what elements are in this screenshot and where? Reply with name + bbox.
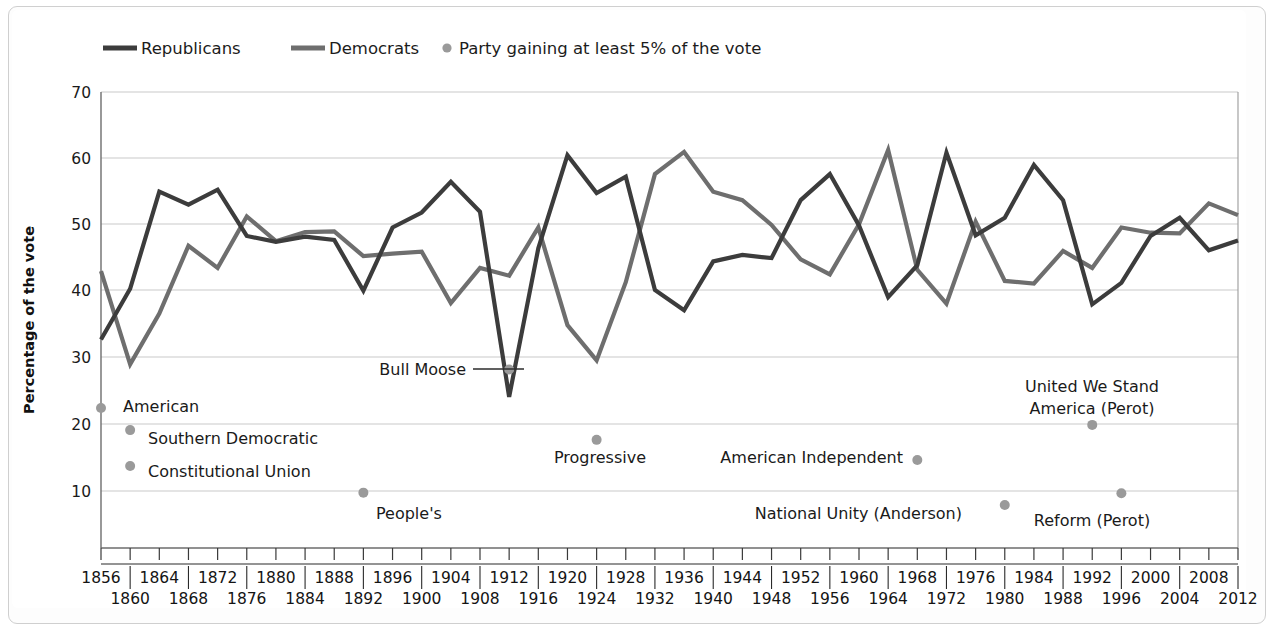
legend-swatch-third-party-dot [442,43,451,52]
x-tick-label-upper: 1864 [140,569,179,587]
annotation-southern-democratic: Southern Democratic [148,429,318,448]
x-tick-label-upper: 1888 [315,569,354,587]
x-tick-label-lower: 1924 [577,590,616,608]
x-tick-label-upper: 1936 [664,569,703,587]
y-axis: 70 60 50 40 30 20 10 Percentage of the v… [21,84,91,501]
annotation-peoples: People's [376,504,442,523]
y-tick-40: 40 [71,282,91,300]
x-axis: 1856186418721880188818961904191219201928… [81,548,1257,608]
x-tick-label-upper: 1952 [781,569,820,587]
x-tick-label-lower: 1988 [1043,590,1082,608]
x-tick-label-lower: 1956 [810,590,849,608]
x-tick-label-upper: 1912 [489,569,528,587]
y-tick-20: 20 [71,416,91,434]
y-tick-50: 50 [71,216,91,234]
third-party-dot [96,403,106,413]
x-tick-label-upper: 1992 [1073,569,1112,587]
x-tick-label-upper: 1928 [606,569,645,587]
y-tick-30: 30 [71,349,91,367]
x-tick-label-lower: 1980 [985,590,1024,608]
annotation-american: American [123,397,199,416]
x-tick-label-lower: 1868 [169,590,208,608]
x-tick-label-lower: 2012 [1218,590,1257,608]
x-tick-label-upper: 1856 [81,569,120,587]
third-party-dot [1000,500,1010,510]
y-tick-70: 70 [71,84,91,102]
x-tick-label-upper: 2000 [1131,569,1170,587]
x-tick-label-upper: 1968 [898,569,937,587]
x-tick-label-lower: 1908 [460,590,499,608]
x-tick-label-upper: 1904 [431,569,470,587]
y-axis-title: Percentage of the vote [21,226,37,414]
third-party-dot [125,425,135,435]
third-party-dot [125,461,135,471]
x-tick-label-lower: 1996 [1102,590,1141,608]
annotation-united-we-stand-line2: America (Perot) [1030,399,1155,418]
y-tick-60: 60 [71,150,91,168]
third-party-dot [912,455,922,465]
x-tick-label-lower: 1876 [227,590,266,608]
x-tick-label-lower: 1948 [752,590,791,608]
x-tick-label-upper: 1984 [1014,569,1053,587]
legend-label-third-party: Party gaining at least 5% of the vote [459,39,761,58]
x-tick-label-upper: 1976 [956,569,995,587]
annotation-bull-moose: Bull Moose [379,360,466,379]
x-tick-label-lower: 1932 [635,590,674,608]
x-tick-label-lower: 1860 [110,590,149,608]
election-vote-share-chart: Republicans Democrats Party gaining at l… [0,0,1278,634]
annotation-national-unity: National Unity (Anderson) [755,504,962,523]
x-tick-label-lower: 2004 [1160,590,1199,608]
x-tick-label-lower: 1892 [344,590,383,608]
x-tick-label-lower: 1884 [285,590,324,608]
annotation-constitutional-union: Constitutional Union [148,462,311,481]
x-tick-label-lower: 1972 [927,590,966,608]
x-tick-label-lower: 1900 [402,590,441,608]
x-tick-label-upper: 1880 [256,569,295,587]
third-party-dot [1116,488,1126,498]
x-tick-label-upper: 1872 [198,569,237,587]
legend: Republicans Democrats Party gaining at l… [103,39,761,58]
legend-label-democrats: Democrats [329,39,419,58]
third-party-dot [358,488,368,498]
annotation-united-we-stand-line1: United We Stand [1025,377,1159,396]
x-tick-label-lower: 1916 [519,590,558,608]
third-party-dot [592,435,602,445]
annotation-progressive: Progressive [554,448,646,467]
x-tick-label-lower: 1940 [694,590,733,608]
x-tick-label-upper: 1920 [548,569,587,587]
x-tick-label-upper: 2008 [1189,569,1228,587]
annotation-american-independent: American Independent [720,448,903,467]
x-tick-label-lower: 1964 [868,590,907,608]
third-party-dot [1087,420,1097,430]
x-tick-label-upper: 1944 [723,569,762,587]
x-tick-label-upper: 1960 [839,569,878,587]
figure-root: Republicans Democrats Party gaining at l… [0,0,1278,634]
x-tick-label-upper: 1896 [373,569,412,587]
annotation-reform-perot: Reform (Perot) [1034,511,1150,530]
legend-label-republicans: Republicans [141,39,241,58]
y-tick-10: 10 [71,483,91,501]
